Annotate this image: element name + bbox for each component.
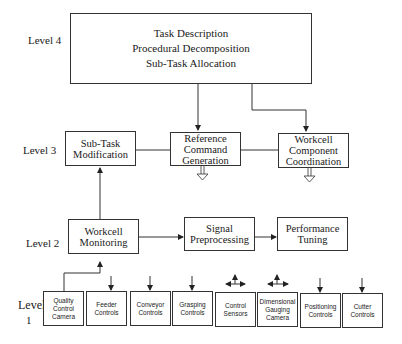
box-line: Dimensional (260, 298, 296, 306)
box-line: Grasping (179, 301, 205, 309)
box-line: Conveyor (137, 301, 165, 309)
box-line: Tuning (298, 234, 328, 245)
sub-task-allocation-text: Sub-Task Allocation (146, 56, 236, 71)
level-1-number: 1 (26, 314, 32, 326)
box-line: Performance (286, 223, 340, 234)
box-line: Controls (350, 311, 374, 319)
workcell-component-coordination-box: Workcell Component Coordination (278, 133, 349, 168)
box-line: Monitoring (80, 237, 128, 248)
box-line: Preprocessing (190, 234, 249, 245)
box-line: Coordination (286, 156, 341, 167)
performance-tuning-box: Performance Tuning (277, 217, 348, 251)
feeder-controls-box: Feeder Controls (86, 291, 127, 326)
conveyor-controls-box: Conveyor Controls (130, 291, 171, 326)
box-line: Workcell (294, 134, 332, 145)
box-line: Controls (180, 309, 204, 317)
box-line: Cutter (354, 303, 372, 311)
box-line: Command (184, 144, 228, 155)
level-2-label: Level 2 (26, 237, 59, 249)
box-line: Signal (206, 223, 233, 234)
task-planning-box: Task Description Procedural Decompositio… (70, 13, 312, 84)
reference-command-generation-box: Reference Command Generation (170, 132, 241, 166)
level-3-label: Level 3 (23, 144, 56, 156)
box-line: Controls (308, 311, 332, 319)
box-line: Camera (52, 313, 75, 321)
box-line: Controls (138, 309, 162, 317)
box-line: Control (53, 305, 74, 313)
box-line: Component (289, 145, 338, 156)
grasping-controls-box: Grasping Controls (172, 291, 213, 326)
box-line: Sub-Task (81, 138, 121, 149)
box-line: Positioning (305, 303, 337, 311)
dimensional-gauging-camera-box: Dimensional Gauging Camera (257, 292, 298, 327)
box-line: Control (225, 302, 246, 310)
level-4-label: Level 4 (28, 34, 61, 46)
workcell-monitoring-box: Workcell Monitoring (68, 219, 139, 254)
box-line: Reference (184, 133, 227, 144)
box-line: Quality (53, 297, 73, 305)
box-line: Sensors (224, 310, 248, 318)
box-line: Workcell (84, 226, 122, 237)
box-line: Feeder (96, 301, 117, 309)
box-line: Controls (94, 309, 118, 317)
box-line: Camera (266, 314, 289, 322)
level-1-label: Level (18, 298, 45, 313)
box-line: Modification (73, 149, 128, 160)
cutter-controls-box: Cutter Controls (342, 293, 383, 328)
procedural-decomposition-text: Procedural Decomposition (132, 41, 250, 56)
quality-control-camera-box: Quality Control Camera (43, 291, 84, 326)
box-line: Gauging (265, 306, 290, 314)
task-description-text: Task Description (154, 26, 229, 41)
control-sensors-box: Control Sensors (215, 292, 256, 327)
sub-task-modification-box: Sub-Task Modification (65, 131, 136, 166)
box-line: Generation (182, 155, 229, 166)
positioning-controls-box: Positioning Controls (300, 293, 341, 328)
signal-preprocessing-box: Signal Preprocessing (184, 217, 255, 251)
